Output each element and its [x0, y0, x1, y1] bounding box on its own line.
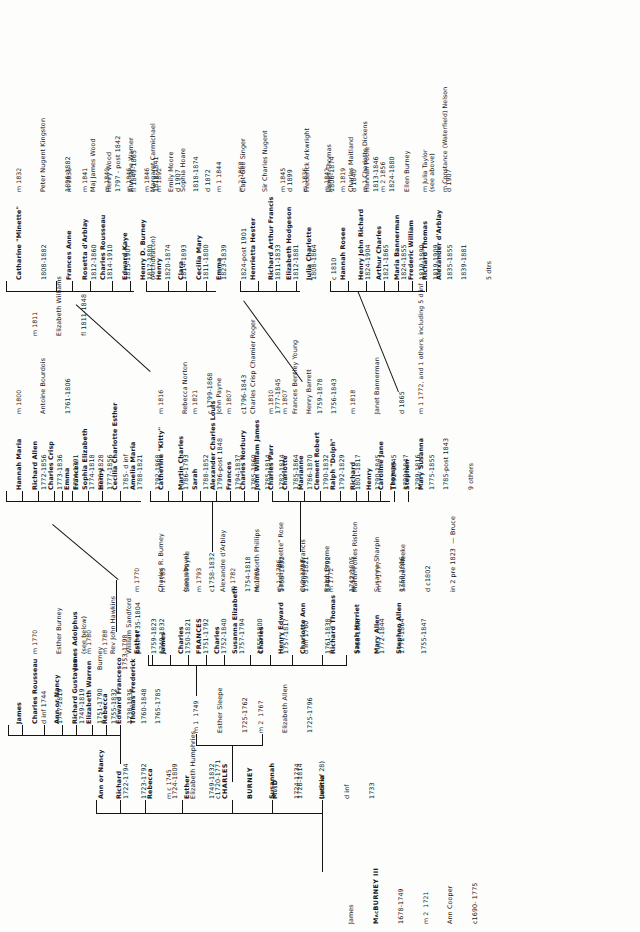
- stem-charles-rousseau: [22, 725, 23, 736]
- marriage-label: m 2 1856: [379, 150, 387, 192]
- marriage-label: m 1 1777: [375, 516, 383, 592]
- stem-frances-1785: [216, 491, 217, 502]
- marriage-label: m 1807: [281, 369, 289, 414]
- gen4-connector-b: [212, 502, 213, 552]
- spouse-dates: c1758-1832: [208, 551, 216, 592]
- gen3-bus: [148, 665, 346, 666]
- stem-sarah-harriet: [346, 655, 347, 666]
- person-stephen-allen: Stephen Allen 1755-1847: [378, 602, 445, 654]
- stem-emma-1824: [206, 281, 207, 292]
- stem-cecilia-mary: [186, 281, 187, 292]
- stem-frances-anne: [56, 281, 57, 292]
- gen3-connector: [196, 666, 197, 696]
- charles-marriage-bus: [196, 745, 262, 746]
- gen4-connector-c: [300, 502, 301, 552]
- person-alexander-darblay: Alexander d'Arblay 1839-1881 5 dtrs: [418, 210, 510, 280]
- stem-sophia-elizabeth: [72, 491, 73, 502]
- stem-henry-edward: [270, 655, 271, 666]
- stem-richard-gustavus: [62, 725, 63, 736]
- stem-elizabeth-hodgeson: [276, 281, 277, 292]
- marriage-label: m Constance (Waterfield) Nelson: [441, 87, 449, 192]
- gen2-stem-m1: [196, 734, 197, 746]
- stem-richard-1790: [340, 491, 341, 502]
- stem-elizabeth-warren: [76, 725, 77, 736]
- stem-alexander-charles-louis: [200, 491, 201, 502]
- stem-henry-d-burney: [130, 281, 131, 292]
- marriage-hannah-maria: m 1800 Antoine Bourdois 1761-1806: [0, 358, 89, 414]
- root-given-name: James: [347, 868, 355, 924]
- root-spouse: Ann Cooper: [446, 868, 454, 924]
- root-dates: 1678-1749: [397, 868, 405, 924]
- person-dates: 1785-post 1843: [442, 438, 450, 490]
- stem-henry-john-richard: [348, 281, 349, 292]
- spouse-name: Charles R. Burney: [157, 533, 165, 592]
- stem-richard-thomas: [322, 655, 323, 666]
- stem-catharine-minette: [6, 281, 7, 292]
- stem-thomas-frederick: [120, 725, 121, 736]
- gen2-marriage-1: m 1 1749 Esther Sleepe 1725-1762: [175, 688, 266, 734]
- gen1-stem-letitia: [322, 800, 323, 814]
- stem-alexander-darblay: [426, 281, 427, 292]
- chart-sheet: James MacBURNEY III 1678-1749 m 2 1721 A…: [0, 0, 640, 932]
- spouse-dates: 1761-1806: [64, 358, 72, 414]
- person-marriage: m c 1745: [165, 731, 173, 799]
- person-name: Alexander d'Arblay: [435, 210, 443, 280]
- diagonal-esther-to-gen4: [52, 524, 119, 580]
- stem-richard-allen: [22, 491, 23, 502]
- stem-charlotte-1786: [272, 491, 273, 502]
- person-name: Esther: [133, 618, 141, 654]
- spouse-name: Henry Barrett: [305, 369, 313, 414]
- stem-clara: [168, 281, 169, 292]
- person-dates: 1749-1832: [158, 618, 166, 654]
- stem-james-1750: [152, 655, 153, 666]
- stem-ann-nancy-2: [44, 725, 45, 736]
- person-name: Ann or Nancy: [97, 750, 105, 799]
- stem-clement-robert: [304, 491, 305, 502]
- stem-edward-francesco: [106, 725, 107, 736]
- spouse-name: Esther Sleepe: [216, 688, 224, 734]
- marriage-alexander-darblay: m Constance (Waterfield) Nelson: [424, 87, 465, 192]
- marriage-label: m 1832: [15, 118, 23, 192]
- stem-charles-parr-f: [250, 655, 251, 666]
- marriage-label: m 1788: [101, 598, 109, 654]
- stem-susanna-elizabeth: [224, 655, 225, 666]
- charles-marriage-connector: [232, 746, 233, 782]
- stem-edward-kaye: [112, 281, 113, 292]
- gen4-connector-a: [116, 580, 117, 632]
- spouse-name: Antoine Bourdois: [39, 358, 47, 414]
- spouse-dates: 1755-1832: [278, 529, 286, 592]
- gen1-person-ann: Ann or Nancy 1722-1794: [80, 750, 147, 799]
- spouse-name: Janet Bannerman: [373, 357, 381, 414]
- marriage-label: m 1892: [155, 148, 163, 192]
- stem-amelia-maria: [120, 491, 121, 502]
- spouse-dates: d c1802: [424, 516, 432, 592]
- root-surname: MacBURNEY III: [372, 868, 380, 924]
- marriage-mary-susanna: m 1 1772, and 1 others, including 5 d in…: [400, 283, 441, 414]
- stem-julia-charlotte: [296, 281, 297, 292]
- marriage-label: m 1816: [157, 362, 165, 414]
- person-name: Frances: [72, 454, 80, 490]
- stem-frances-1776: [62, 491, 63, 502]
- person-dates: 1726-1814: [296, 763, 304, 799]
- stem-catherine-kitty: [150, 491, 151, 502]
- stem-ralph-dolph: [320, 491, 321, 502]
- stem-charlotte-ann: [292, 655, 293, 666]
- gen1-stem-esther: [182, 800, 183, 814]
- stem-charles-1751: [170, 655, 171, 666]
- spouse-dates: 1754-1818: [244, 530, 252, 592]
- root-connector: [322, 814, 323, 872]
- person-esther-gen3: Esther 1749-1832: [116, 618, 183, 654]
- person-name: Julia Charlotte: [305, 227, 313, 280]
- stem-rebecca-2: [92, 725, 93, 736]
- gen4-bus-mid: [150, 501, 258, 502]
- person-note: d inf: [343, 775, 351, 799]
- spouse-name: Samuel Meeke: [399, 516, 407, 592]
- person-dates: 1839-1881: [460, 210, 468, 280]
- stem-maria-bannerman: [384, 281, 385, 292]
- stem-martin-charles: [168, 491, 169, 502]
- spouse-name: Sophia Hoare: [179, 148, 187, 192]
- person-dates: 1808-1882: [40, 206, 48, 280]
- stem-richard-arthur-francis: [258, 281, 259, 292]
- person-name: Catharine "Minette": [15, 206, 23, 280]
- stem-james-dinf: [8, 725, 9, 736]
